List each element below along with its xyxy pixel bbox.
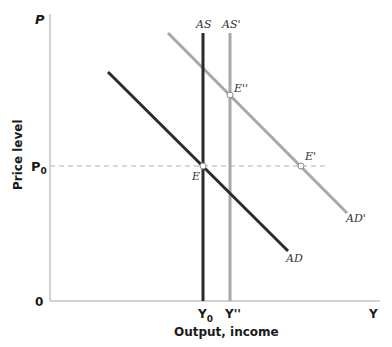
ad-prime-label: AD' — [345, 212, 366, 225]
ad-curve — [108, 72, 288, 251]
y-axis-symbol: P — [35, 12, 45, 27]
x-axis-symbol: Y — [368, 307, 378, 321]
y0-label: Y0 — [197, 307, 213, 324]
x-axis-title: Output, income — [174, 325, 279, 339]
y-double-prime-label: Y'' — [224, 307, 241, 321]
point-e — [200, 163, 206, 169]
point-e-prime — [298, 163, 304, 169]
origin-label: 0 — [35, 295, 43, 309]
ad-label: AD — [285, 252, 303, 265]
point-e-prime-label: E' — [304, 150, 316, 163]
point-e-label: E — [191, 170, 200, 183]
point-e-double-prime — [227, 92, 233, 98]
y-axis-title: Price level — [11, 119, 25, 190]
as-label: AS — [195, 18, 212, 31]
ad-prime-curve — [168, 33, 347, 213]
as-ad-diagram: P Price level P0 0 Y0 Y'' Y Output, inco… — [0, 0, 392, 347]
point-e-double-prime-label: E'' — [233, 82, 248, 95]
p0-label: P0 — [31, 159, 47, 176]
as-prime-label: AS' — [221, 18, 241, 31]
